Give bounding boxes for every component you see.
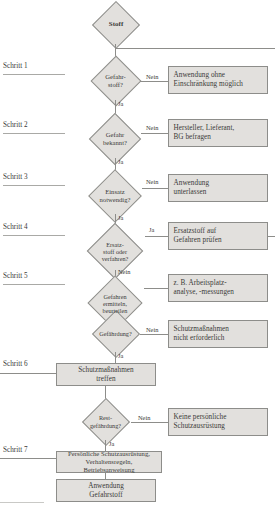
box-line-2: Gefahrstoff	[89, 491, 123, 500]
edge-label-ja-2: Ja	[118, 158, 123, 165]
box-line-1: Hersteller, Lieferant,	[171, 124, 266, 133]
box-line-2: treffen	[96, 375, 115, 384]
step-label-2: Schritt 2	[3, 121, 28, 129]
box-arbeitsplatzanalyse: z. B. Arbeitsplatz- analyse, -messungen	[168, 274, 268, 302]
node-restgefaehrdung-label: Rest- gefährdung?	[90, 414, 121, 429]
box-line-2: analyse, -messungen	[171, 288, 266, 297]
edge-label-nein-7: Nein	[138, 414, 150, 421]
top-divider-line	[116, 48, 275, 49]
box-hersteller-lieferant-bg: Hersteller, Lieferant, BG befragen	[168, 119, 268, 147]
edge-d6-nein	[140, 334, 169, 335]
node-einsatz-notwendig-label: Einsatz notwendig?	[100, 188, 131, 203]
box-line-2: nicht erforderlich	[171, 334, 266, 343]
node-ersatzstoff-verfahren-label: Ersatz- stoff oder verfahren?	[102, 241, 129, 262]
step-rule-4	[3, 235, 65, 236]
step-connector-7	[0, 458, 56, 459]
step-label-5: Schritt 5	[3, 272, 28, 280]
step-rule-1	[3, 74, 65, 75]
edge-d3-nein	[142, 188, 169, 189]
box-persoenliche-schutzausruestung: Persönliche Schutzausrüstung, Verhaltens…	[56, 451, 162, 473]
node-stoff-label: Stoff	[109, 21, 124, 29]
node-gefaehrdung-label: Gefährdung?	[99, 330, 132, 338]
edge-label-nein-6: Nein	[146, 326, 158, 333]
node-gefahrstoff: Gefahr- stoff?	[88, 56, 143, 105]
edge-label-nein-4: Nein	[118, 268, 130, 275]
node-gefaehrdung: Gefährdung?	[89, 310, 142, 358]
step-label-4: Schritt 4	[3, 223, 28, 231]
box-line-1: Keine persönliche	[171, 413, 266, 422]
step-label-3: Schritt 3	[3, 173, 28, 181]
node-gefahr-bekannt-label: Gefahr bekannt?	[103, 131, 127, 146]
box-ersatzstoff-pruefen: Ersatzstoff auf Gefahren prüfen	[168, 222, 268, 250]
edge-d7-nein	[131, 422, 168, 423]
box-line-1: Schutzmaßnahmen	[78, 366, 133, 375]
box-line-2: Verhaltensregeln, Betriebsanweisung	[60, 458, 158, 474]
box-line-1: Anwendung ohne	[171, 71, 266, 80]
box-line-2: Gefahren prüfen	[171, 236, 266, 245]
box-line-2: Einschränkung möglich	[171, 80, 266, 89]
box-line-1: Anwendung	[171, 179, 266, 188]
box-keine-persoenliche-schutzausruestung: Keine persönliche Schutzausrüstung	[168, 408, 268, 436]
box-line-1: Anwendung	[88, 482, 124, 491]
edge-d4-ja	[145, 236, 169, 237]
footer-rule	[0, 502, 44, 503]
node-gefahrstoff-label: Gefahr- stoff?	[105, 73, 126, 88]
box-schutzmassnahmen-treffen: Schutzmaßnahmen treffen	[56, 363, 156, 386]
edge-label-ja-7: Ja	[109, 440, 114, 447]
box-schutzmassnahmen-nicht-erforderlich: Schutzmaßnahmen nicht erforderlich	[168, 320, 268, 348]
step-label-1: Schritt 1	[3, 62, 28, 70]
node-gefahren-ermitteln-label: Gefahren ermitteln, beurteilen	[103, 293, 128, 314]
box-line-1: Ersatzstoff auf	[171, 227, 266, 236]
edge-label-ja-4: Ja	[149, 226, 154, 233]
step-label-7: Schritt 7	[3, 446, 28, 454]
box-anwendung-unterlassen: Anwendung unterlassen	[168, 174, 268, 202]
edge-d5-to-box5	[144, 288, 169, 289]
step-rule-2	[3, 133, 65, 134]
step-rule-3	[3, 185, 65, 186]
edge-label-ja-1: Ja	[118, 100, 123, 107]
box-line-1: z. B. Arbeitsplatz-	[171, 279, 266, 288]
step-label-6: Schritt 6	[3, 360, 28, 368]
edge-box4-right-overflow	[268, 236, 275, 237]
box-anwendung-ohne-einschraenkung: Anwendung ohne Einschränkung möglich	[168, 66, 268, 94]
edge-label-nein-3: Nein	[146, 178, 158, 185]
edge-label-nein-2: Nein	[146, 124, 158, 131]
edge-d2-nein	[141, 133, 169, 134]
edge-label-nein-1: Nein	[146, 73, 158, 80]
flowchart-canvas: Schritt 1 Schritt 2 Schritt 3 Schritt 4 …	[0, 0, 275, 507]
box-line-2: BG befragen	[171, 133, 266, 142]
box-line-2: Schutzausrüstung	[171, 422, 266, 431]
edge-label-ja-6: Ja	[118, 352, 123, 359]
step-rule-5	[3, 284, 65, 285]
step-connector-6	[0, 373, 56, 374]
edge-d1-nein	[140, 81, 169, 82]
box-anwendung-gefahrstoff: Anwendung Gefahrstoff	[56, 479, 156, 502]
node-stoff: Stoff	[88, 2, 144, 48]
box-line-1: Schutzmaßnahmen	[171, 325, 266, 334]
node-restgefaehrdung: Rest- gefährdung?	[79, 398, 132, 446]
box-line-2: unterlassen	[171, 188, 266, 197]
box-line-1: Persönliche Schutzausrüstung,	[68, 450, 150, 458]
edge-label-ja-3: Ja	[118, 214, 123, 221]
node-gefahr-bekannt: Gefahr bekannt?	[86, 114, 144, 164]
